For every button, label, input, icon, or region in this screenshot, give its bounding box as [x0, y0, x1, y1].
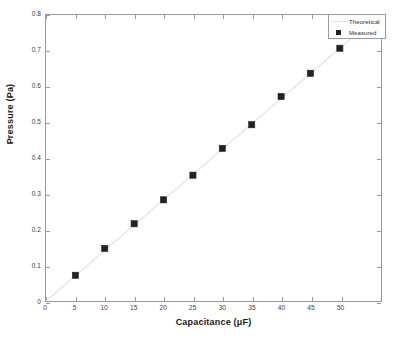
legend-box: Theoretical Measured	[328, 14, 386, 39]
x-tick-label: 25	[181, 304, 205, 311]
y-tick-label: 0	[15, 298, 41, 305]
y-tick-right	[377, 303, 381, 304]
y-tick-label: 0.4	[15, 154, 41, 161]
y-tick-label: 0.1	[15, 262, 41, 269]
legend-label-measured: Measured	[349, 30, 376, 36]
x-tick-label: 15	[122, 304, 146, 311]
y-tick-label: 0.5	[15, 118, 41, 125]
theoretical-line	[46, 15, 381, 301]
legend-entry-theoretical: Theoretical	[329, 16, 385, 27]
plot-area	[45, 14, 382, 302]
x-axis-label: Capacitance (μF)	[45, 317, 382, 327]
figure-canvas: Pressure (Pa) Capacitance (μF) 051015202…	[0, 0, 404, 339]
y-tick-label: 0.6	[15, 82, 41, 89]
x-tick-label: 20	[151, 304, 175, 311]
series-theoretical	[46, 15, 381, 301]
data-point-marker	[337, 45, 343, 51]
data-point-marker	[72, 272, 78, 278]
data-point-marker	[249, 122, 255, 128]
data-point-marker	[160, 197, 166, 203]
y-tick-label: 0.3	[15, 190, 41, 197]
x-tick-label: 0	[33, 304, 57, 311]
x-tick-label: 40	[269, 304, 293, 311]
x-tick-label: 45	[299, 304, 323, 311]
x-tick-label: 5	[63, 304, 87, 311]
legend-label-theoretical: Theoretical	[349, 19, 380, 25]
y-axis-label: Pressure (Pa)	[5, 64, 15, 164]
x-tick-label: 35	[240, 304, 264, 311]
legend-line-swatch	[329, 16, 349, 27]
data-point-marker	[219, 145, 225, 151]
data-point-marker	[278, 93, 284, 99]
data-point-marker	[307, 70, 313, 76]
y-tick-label: 0.8	[15, 10, 41, 17]
data-point-marker	[131, 221, 137, 227]
x-tick-label: 30	[210, 304, 234, 311]
data-point-marker	[102, 245, 108, 251]
data-layer	[46, 15, 381, 301]
legend-entry-measured: Measured	[329, 27, 385, 38]
x-tick-label: 10	[92, 304, 116, 311]
legend-marker-swatch	[329, 27, 349, 38]
data-point-marker	[190, 172, 196, 178]
y-tick	[46, 303, 50, 304]
x-tick-label: 50	[329, 304, 353, 311]
y-tick-label: 0.2	[15, 226, 41, 233]
y-tick-label: 0.7	[15, 46, 41, 53]
